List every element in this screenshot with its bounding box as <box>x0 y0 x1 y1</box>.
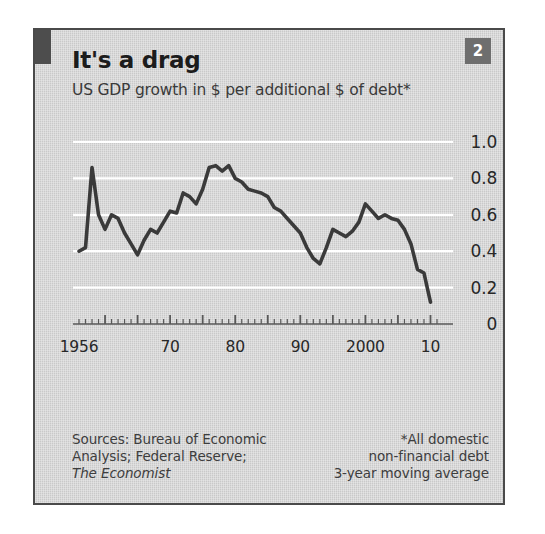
source-line-2: Analysis; Federal Reserve; <box>72 448 267 465</box>
gridlines <box>73 142 453 288</box>
chart-canvas <box>35 118 505 418</box>
source-line-3: The Economist <box>72 465 267 482</box>
x-axis-tick-label: 90 <box>291 338 310 356</box>
y-axis-tick-label: 0.6 <box>471 205 497 225</box>
chart-figure: It's a drag US GDP growth in $ per addit… <box>0 0 545 534</box>
y-axis-tick-label: 0.4 <box>471 241 497 261</box>
x-axis-tick-label: 10 <box>421 338 440 356</box>
source-note: Sources: Bureau of Economic Analysis; Fe… <box>72 431 267 482</box>
y-axis-tick-label: 0.2 <box>471 278 497 298</box>
x-axis-tick-label: 70 <box>160 338 179 356</box>
chart-number-badge: 2 <box>465 38 491 64</box>
chart-subtitle: US GDP growth in $ per additional $ of d… <box>72 81 411 99</box>
x-axis-tick-label: 80 <box>226 338 245 356</box>
y-axis-tick-label: 0.8 <box>471 168 497 188</box>
footnote: *All domestic non-financial debt 3-year … <box>334 431 489 482</box>
note-line-3: 3-year moving average <box>334 465 489 482</box>
x-axis-ticks <box>79 315 437 324</box>
source-line-1: Sources: Bureau of Economic <box>72 431 267 448</box>
chart-header: It's a drag US GDP growth in $ per addit… <box>35 30 503 118</box>
data-line-series <box>79 166 430 303</box>
title-accent-bar <box>35 30 51 64</box>
chart-footer: Sources: Bureau of Economic Analysis; Fe… <box>35 425 503 503</box>
chart-panel: It's a drag US GDP growth in $ per addit… <box>33 28 505 505</box>
note-line-1: *All domestic <box>334 431 489 448</box>
y-axis-tick-label: 0 <box>486 314 497 334</box>
plot-area: 1.00.80.60.40.20 1956708090200010 <box>35 118 505 418</box>
note-line-2: non-financial debt <box>334 448 489 465</box>
page-title: It's a drag <box>72 47 200 73</box>
x-axis-tick-label: 1956 <box>60 338 99 356</box>
x-axis-tick-label: 2000 <box>346 338 385 356</box>
y-axis-tick-label: 1.0 <box>471 132 497 152</box>
